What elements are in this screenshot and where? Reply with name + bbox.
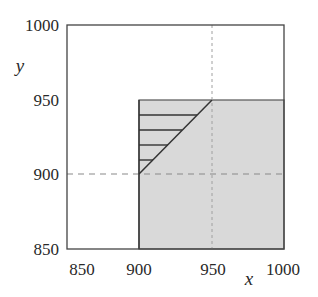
x-tick-950: 950: [200, 260, 226, 279]
y-tick-850: 850: [34, 240, 60, 259]
x-tick-850: 850: [69, 260, 95, 279]
y-tick-1000: 1000: [25, 16, 59, 35]
diagram-canvas: 1000 950 900 850 850 900 950 1000 y x: [0, 0, 318, 297]
x-tick-1000: 1000: [266, 260, 300, 279]
y-tick-950: 950: [34, 91, 60, 110]
x-tick-900: 900: [126, 260, 152, 279]
y-tick-900: 900: [34, 165, 60, 184]
x-axis-label: x: [244, 268, 254, 289]
y-axis-label: y: [14, 55, 25, 76]
